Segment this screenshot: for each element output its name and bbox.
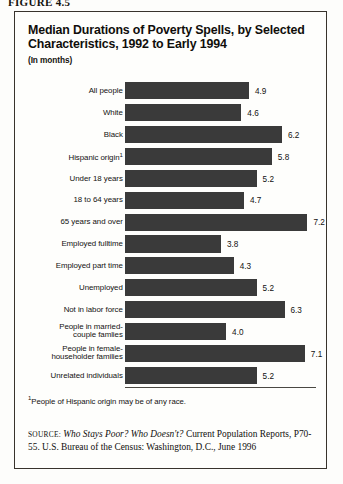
page-title-line-1: Median Durations of Poverty Spells, by S… bbox=[28, 23, 314, 37]
figure-number: FIGURE 4.5 bbox=[8, 0, 70, 8]
bar-value-label: 5.2 bbox=[263, 174, 274, 183]
bar-category-label: Employed fulltime bbox=[61, 240, 122, 249]
bar bbox=[125, 82, 249, 99]
footnote: 1People of Hispanic origin may be of any… bbox=[28, 395, 312, 406]
bar-row: Under 18 years5.2 bbox=[28, 168, 316, 190]
bar bbox=[125, 235, 222, 252]
bar-value-label: 7.2 bbox=[313, 218, 324, 227]
bar bbox=[125, 214, 308, 231]
bar-row: 65 years and over7.2 bbox=[28, 211, 316, 233]
bar bbox=[125, 104, 242, 121]
bar-value-label: 4.7 bbox=[250, 196, 261, 205]
bar-row: People in female- householder families7.… bbox=[28, 343, 316, 365]
bar-category-label: 18 to 64 years bbox=[74, 196, 123, 205]
bar bbox=[125, 301, 285, 318]
bar-value-label: 4.6 bbox=[247, 108, 258, 117]
bar-value-label: 5.8 bbox=[278, 152, 289, 161]
bar bbox=[125, 192, 244, 209]
title-block: Median Durations of Poverty Spells, by S… bbox=[28, 23, 314, 65]
bar-value-label: 6.3 bbox=[291, 305, 302, 314]
bar bbox=[125, 367, 257, 384]
bar-value-label: 7.1 bbox=[311, 349, 322, 358]
bar-value-label: 5.2 bbox=[263, 283, 274, 292]
bar bbox=[125, 257, 234, 274]
bar bbox=[125, 345, 305, 362]
bar-value-label: 5.2 bbox=[263, 371, 274, 380]
bar-category-label: Unrelated individuals bbox=[51, 371, 123, 380]
bar-row: 18 to 64 years4.7 bbox=[28, 189, 316, 211]
bar-category-label: Unemployed bbox=[79, 284, 123, 293]
chart-subtitle: (In months) bbox=[28, 55, 314, 65]
bar bbox=[125, 148, 272, 165]
bar-category-label: People in female- householder families bbox=[51, 345, 122, 362]
bar-value-label: 6.2 bbox=[288, 130, 299, 139]
bar-category-label: Not in labor force bbox=[64, 305, 123, 314]
bar-row: White4.6 bbox=[28, 102, 316, 124]
source-label: source: bbox=[28, 430, 61, 439]
bar-value-label: 4.3 bbox=[240, 262, 251, 271]
bar-row: Employed part time4.3 bbox=[28, 255, 316, 277]
bar-value-label: 4.9 bbox=[255, 86, 266, 95]
bar-category-label: Under 18 years bbox=[70, 174, 123, 183]
bar-row: Unrelated individuals5.2 bbox=[28, 365, 316, 387]
axis-baseline bbox=[125, 387, 316, 388]
bar-row: Not in labor force6.3 bbox=[28, 299, 316, 321]
bar bbox=[125, 279, 257, 296]
source-title: Who Stays Poor? Who Doesn't? bbox=[63, 429, 183, 439]
bar-value-label: 4.0 bbox=[232, 327, 243, 336]
bar-row: Hispanic origin15.8 bbox=[28, 146, 316, 168]
category-footnote-marker: 1 bbox=[120, 151, 123, 157]
bar-row: People in married- couple famlies4.0 bbox=[28, 321, 316, 343]
bar bbox=[125, 323, 227, 340]
bar-row: Employed fulltime3.8 bbox=[28, 233, 316, 255]
bar-category-label: All people bbox=[89, 87, 123, 96]
bar-row: Unemployed5.2 bbox=[28, 277, 316, 299]
bar-chart: All people4.9White4.6Black6.2Hispanic or… bbox=[28, 80, 316, 387]
bar-category-label: Employed part time bbox=[56, 262, 123, 271]
bar-row: Black6.2 bbox=[28, 124, 316, 146]
bar-category-label: Hispanic origin1 bbox=[69, 150, 123, 162]
page-title-line-2: Characteristics, 1992 to Early 1994 bbox=[28, 37, 314, 51]
bar-category-label: 65 years and over bbox=[60, 218, 122, 227]
footnote-text: People of Hispanic origin may be of any … bbox=[31, 397, 186, 406]
figure-panel: Median Durations of Poverty Spells, by S… bbox=[14, 11, 327, 469]
source-note: source: Who Stays Poor? Who Doesn't? Cur… bbox=[28, 428, 316, 454]
bar bbox=[125, 126, 282, 143]
bar-category-label: Black bbox=[104, 130, 123, 139]
bar-value-label: 3.8 bbox=[227, 240, 238, 249]
bar-row: All people4.9 bbox=[28, 80, 316, 102]
bar bbox=[125, 170, 257, 187]
bar-category-label: White bbox=[103, 108, 123, 117]
bar-category-label: People in married- couple famlies bbox=[59, 323, 123, 340]
